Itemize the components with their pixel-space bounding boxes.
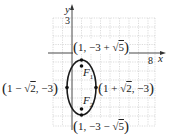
point-label-right-text: 1 + xyxy=(103,82,117,94)
point-label-bottom: (1, −3 − √5) xyxy=(73,118,129,133)
x-axis-label: x xyxy=(158,53,163,64)
point-label-top: (1, −3 + √5) xyxy=(73,39,129,54)
point-label-left-suffix: , −3 xyxy=(36,82,53,94)
ellipse-diagram: y 3 8 x (1, −3 + √5) (1, −3 − √5) (1 − √… xyxy=(0,0,172,136)
point-label-right: (1 + √2, −3) xyxy=(98,80,154,95)
covertex-left-dot xyxy=(65,86,69,90)
y-axis-arrow-icon xyxy=(70,4,74,10)
point-label-top-text: 1, −3 + xyxy=(78,41,110,53)
focus-f1-letter: F xyxy=(83,66,90,78)
focus-f2-label: F2 xyxy=(83,95,93,111)
point-label-left: (1 − √2, −3) xyxy=(2,80,58,95)
vertex-bottom-dot xyxy=(80,113,84,117)
x-tick-label: 8 xyxy=(148,55,153,66)
focus-f1-subscript: 1 xyxy=(90,73,94,81)
focus-f2-letter: F xyxy=(83,94,90,106)
focus-f2-subscript: 2 xyxy=(90,101,94,109)
y-axis-label: y xyxy=(65,4,70,15)
focus-f1-label: F1 xyxy=(83,67,93,83)
point-label-bottom-text: 1, −3 − xyxy=(78,120,110,132)
y-tick-label: 3 xyxy=(65,15,70,26)
point-label-left-text: 1 − xyxy=(7,82,21,94)
vertex-top-dot xyxy=(80,58,84,62)
point-label-right-suffix: , −3 xyxy=(132,82,149,94)
grid xyxy=(53,18,155,126)
